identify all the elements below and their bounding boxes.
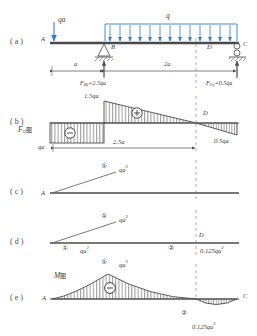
shear-value-peak: 1.5qa — [84, 93, 99, 100]
shear-node-label-d: D — [203, 110, 208, 117]
shear-span-label: 2.5a — [113, 139, 124, 146]
shear-value-right: 0.5qa — [214, 138, 229, 145]
panel-e-term-number-top: ① — [101, 259, 107, 266]
panel-d-term-number-d: ② — [168, 245, 174, 252]
node-label-c: C — [243, 41, 247, 48]
panel-e-node-c: C — [243, 293, 247, 300]
reaction-label-c: FCy=0.5qa — [206, 80, 232, 88]
panel-tag-c: ( c ) — [10, 188, 23, 196]
dimension-2a — [105, 62, 237, 76]
panel-c-value: qa2 — [119, 165, 128, 174]
shear-negative-triangle — [196, 123, 237, 135]
dimension-label-a: a — [74, 61, 77, 68]
reaction-label-b: FBy=2.5qa — [80, 80, 106, 88]
dimension-label-2a: 2a — [164, 61, 171, 68]
shear-negative-block — [50, 123, 104, 143]
panel-d-term-number-bottom: ① — [62, 245, 68, 252]
panel-tag-d: ( d ) — [10, 238, 23, 246]
distributed-load-label: q — [166, 12, 170, 20]
panel-d-value-top: qa2 — [119, 215, 128, 224]
panel-d-value-d: 0.125qa2 — [200, 246, 224, 255]
panel-d-term-number-top: ① — [101, 213, 107, 220]
node-label-b: B — [111, 44, 115, 51]
panel-d-value-bottom: qa2 — [80, 246, 89, 255]
point-load-label: qa — [58, 16, 66, 24]
node-label-d: D — [207, 44, 212, 51]
panel-tag-a: ( a ) — [10, 38, 23, 46]
panel-e-value-neg: 0.125qa2 — [192, 322, 216, 331]
panel-c-node-a: A — [41, 190, 45, 197]
moment-diagram-group — [50, 264, 239, 305]
shear-value-left: qa — [38, 144, 45, 151]
distributed-load-group — [105, 24, 237, 41]
figure-root: ( a ) ( b ) ( c ) ( d ) ( e ) qa q A B D… — [0, 0, 257, 336]
moment-positive-region — [52, 274, 196, 299]
figure-canvas — [0, 0, 257, 336]
panel-e-term-number-neg: ② — [181, 310, 187, 317]
shear-diagram-group — [50, 96, 239, 152]
dimension-a — [52, 62, 104, 76]
panel-e-node-a: A — [42, 295, 46, 302]
panel-d-term-line — [52, 222, 116, 243]
panel-d-node-d: D — [199, 232, 204, 239]
panel-c-term-line — [52, 172, 116, 193]
shear-positive-triangle — [104, 101, 196, 123]
panel-c-group — [50, 160, 239, 200]
shear-diagram-label: FQ图 — [18, 126, 32, 135]
panel-tag-e: ( e ) — [10, 294, 23, 302]
moment-negative-region — [196, 299, 237, 305]
moment-diagram-label: M图 — [54, 272, 66, 280]
panel-c-term-number: ① — [101, 163, 107, 170]
panel-e-value-top: qa2 — [119, 260, 128, 269]
node-label-a: A — [41, 36, 45, 43]
